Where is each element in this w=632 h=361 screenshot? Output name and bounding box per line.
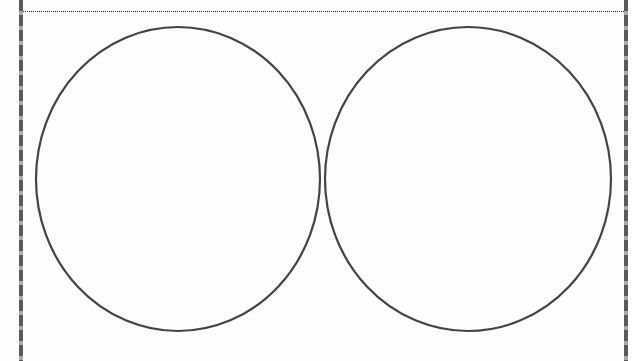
venn-diagram (0, 0, 632, 361)
left-circle (36, 27, 320, 331)
right-circle (325, 27, 611, 331)
diagram-canvas (0, 0, 632, 361)
